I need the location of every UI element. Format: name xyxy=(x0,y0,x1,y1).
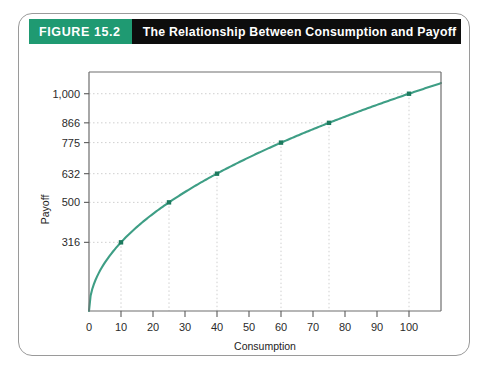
figure-title: The Relationship Between Consumption and… xyxy=(132,19,457,44)
y-axis-tick-label: 500 xyxy=(62,196,80,208)
x-axis-title: Consumption xyxy=(234,340,296,352)
y-axis-tick-label: 632 xyxy=(62,168,80,180)
y-axis-title: Payoff xyxy=(39,195,51,225)
x-axis-tick-label: 30 xyxy=(179,321,191,333)
x-axis-tick-label: 100 xyxy=(400,321,418,333)
data-point-marker xyxy=(279,140,283,144)
x-axis-tick-label: 70 xyxy=(307,321,319,333)
y-axis-tick-label: 775 xyxy=(62,137,80,149)
y-axis-tick-label: 316 xyxy=(62,236,80,248)
data-point-markers-group xyxy=(119,92,411,245)
x-axis-tick-label: 50 xyxy=(243,321,255,333)
x-axis-tick-label: 10 xyxy=(115,321,127,333)
x-axis-tick-label: 20 xyxy=(147,321,159,333)
data-point-marker xyxy=(407,92,411,96)
data-point-marker xyxy=(327,121,331,125)
data-point-marker xyxy=(215,171,219,175)
figure-header: FIGURE 15.2 The Relationship Between Con… xyxy=(29,19,461,44)
y-axis-tick-label: 866 xyxy=(62,117,80,129)
data-point-marker xyxy=(119,240,123,244)
figure-number-badge: FIGURE 15.2 xyxy=(29,19,132,44)
gridlines-group xyxy=(89,94,409,311)
axis-labels-group: 3165006327758661,00001020304050607080901… xyxy=(39,88,418,352)
x-axis-tick-label: 0 xyxy=(86,321,92,333)
x-axis-tick-label: 80 xyxy=(339,321,351,333)
figure-container: FIGURE 15.2 The Relationship Between Con… xyxy=(18,13,470,356)
data-point-marker xyxy=(167,200,171,204)
chart-plot-area: 3165006327758661,00001020304050607080901… xyxy=(19,44,471,355)
x-axis-tick-label: 90 xyxy=(371,321,383,333)
axis-spines xyxy=(89,72,441,311)
y-axis-tick-label: 1,000 xyxy=(52,88,80,100)
payoff-consumption-line-chart: 3165006327758661,00001020304050607080901… xyxy=(19,44,471,355)
axes-group xyxy=(84,72,441,317)
payoff-curve xyxy=(89,83,441,311)
payoff-curve-group xyxy=(89,83,441,311)
x-axis-tick-label: 40 xyxy=(211,321,223,333)
x-axis-tick-label: 60 xyxy=(275,321,287,333)
